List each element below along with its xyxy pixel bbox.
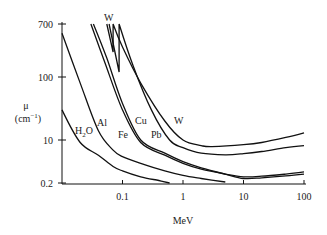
- x-tick-label: 10: [239, 191, 249, 202]
- al-label: Al: [97, 117, 107, 128]
- x-ticks: 0.1110100: [116, 180, 311, 202]
- x-tick-label: 1: [181, 191, 186, 202]
- curve-w: [107, 24, 304, 147]
- curve-cu: [93, 24, 304, 179]
- unit-open: (cm: [15, 113, 31, 125]
- x-axis-label: MeV: [173, 215, 194, 226]
- x-tick-label: 100: [297, 191, 312, 202]
- y-tick-label: 700: [38, 19, 53, 30]
- h2o-label-h: H: [75, 125, 82, 136]
- y-tick-label: 0.2: [41, 178, 54, 189]
- unit-close: ): [38, 113, 41, 125]
- y-tick-label: 100: [38, 72, 53, 83]
- w-edge-label: W: [104, 12, 114, 23]
- cu-label: Cu: [135, 115, 147, 126]
- curve-al: [62, 33, 225, 182]
- curve-h2o: [62, 110, 170, 183]
- y-tick-label: 10: [43, 135, 53, 146]
- curves: [62, 24, 304, 183]
- curve-pb: [109, 24, 304, 155]
- y-axis-label-unit: (cm−1): [15, 112, 41, 125]
- w-label: W: [174, 115, 184, 126]
- h2o-label: H2O: [75, 125, 93, 139]
- attenuation-chart: 0.210100700 0.1110100 W H2O Al Fe Cu Pb …: [0, 0, 327, 235]
- fe-label: Fe: [118, 129, 129, 140]
- pb-label: Pb: [151, 129, 162, 140]
- h2o-label-o: O: [86, 125, 93, 136]
- x-tick-label: 0.1: [116, 191, 129, 202]
- y-axis-label-mu: μ: [23, 100, 28, 111]
